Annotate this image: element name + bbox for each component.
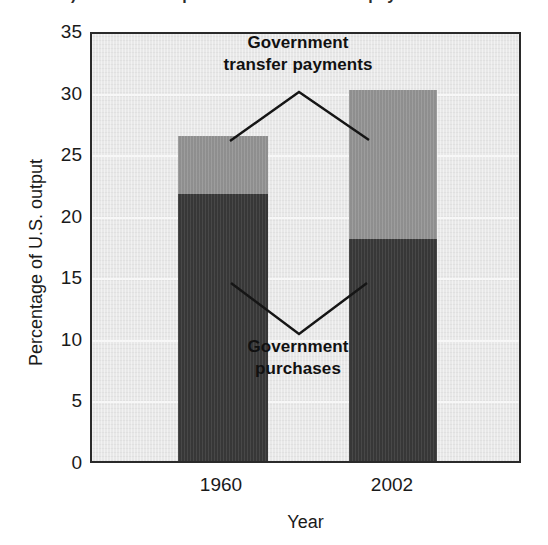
bar-2002 xyxy=(349,90,437,461)
bar-1960 xyxy=(178,136,268,461)
y-tick-10: 10 xyxy=(12,329,90,351)
gridline-5 xyxy=(92,401,519,403)
y-axis-title: Percentage of U.S. output xyxy=(26,143,47,383)
bar-1960-segment-purchases xyxy=(178,194,268,461)
y-tick-0: 0 xyxy=(12,452,90,474)
gridline-20 xyxy=(92,217,519,219)
annotation-purchases: Government purchases xyxy=(148,336,448,380)
plot-texture xyxy=(92,34,519,461)
y-tick-30: 30 xyxy=(12,83,90,105)
y-tick-35: 35 xyxy=(12,21,90,43)
x-axis-title: Year xyxy=(90,512,521,533)
y-tick-15: 15 xyxy=(12,267,90,289)
segment-texture xyxy=(349,90,437,239)
segment-texture xyxy=(178,136,268,194)
x-tick-1960: 1960 xyxy=(141,474,301,496)
gridline-30 xyxy=(92,94,519,96)
y-tick-20: 20 xyxy=(12,206,90,228)
x-tick-2002: 2002 xyxy=(312,474,472,496)
gridline-25 xyxy=(92,155,519,157)
plot-area xyxy=(90,32,521,463)
bar-2002-segment-transfers xyxy=(349,90,437,239)
y-tick-5: 5 xyxy=(12,390,90,412)
clipped-caption: a) Government purchases and transfer pay… xyxy=(62,0,492,6)
y-tick-25: 25 xyxy=(12,144,90,166)
gridline-15 xyxy=(92,278,519,280)
annotation-transfer-payments: Government transfer payments xyxy=(148,32,448,76)
segment-texture xyxy=(178,194,268,461)
chart-figure: a) Government purchases and transfer pay… xyxy=(0,0,548,545)
bar-1960-segment-transfers xyxy=(178,136,268,194)
